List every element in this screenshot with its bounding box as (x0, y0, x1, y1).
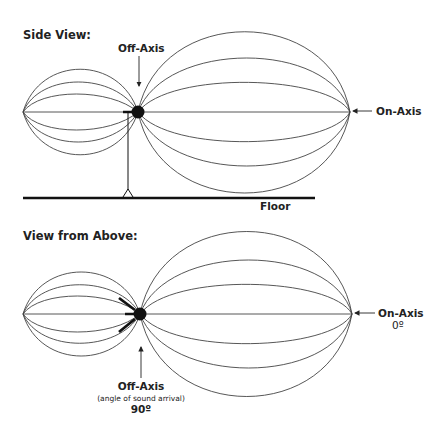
off-axis-angle: 90º (131, 403, 152, 415)
side-view-title: Side View: (23, 28, 91, 42)
front-lobe (138, 32, 350, 193)
off-axis-label: Off-Axis (118, 42, 165, 54)
floor-label: Floor (260, 200, 291, 212)
rear-lobe-above (23, 272, 140, 356)
above-view-title: View from Above: (23, 229, 138, 243)
rear-lobe (23, 69, 138, 155)
on-axis-label-above: On-Axis (378, 307, 424, 319)
side-view: Side View: Floor Off-Axis (23, 28, 422, 212)
off-axis-label-above: Off-Axis (118, 380, 165, 392)
on-axis-angle: 0º (392, 319, 404, 331)
polar-pattern-diagram: Side View: Floor Off-Axis (0, 0, 439, 429)
on-axis-label: On-Axis (376, 105, 422, 117)
off-axis-sublabel: (angle of sound arrival) (97, 394, 185, 403)
above-view: View from Above: Off-Axis (angle of soun… (23, 229, 424, 415)
front-lobe-above (140, 232, 352, 397)
